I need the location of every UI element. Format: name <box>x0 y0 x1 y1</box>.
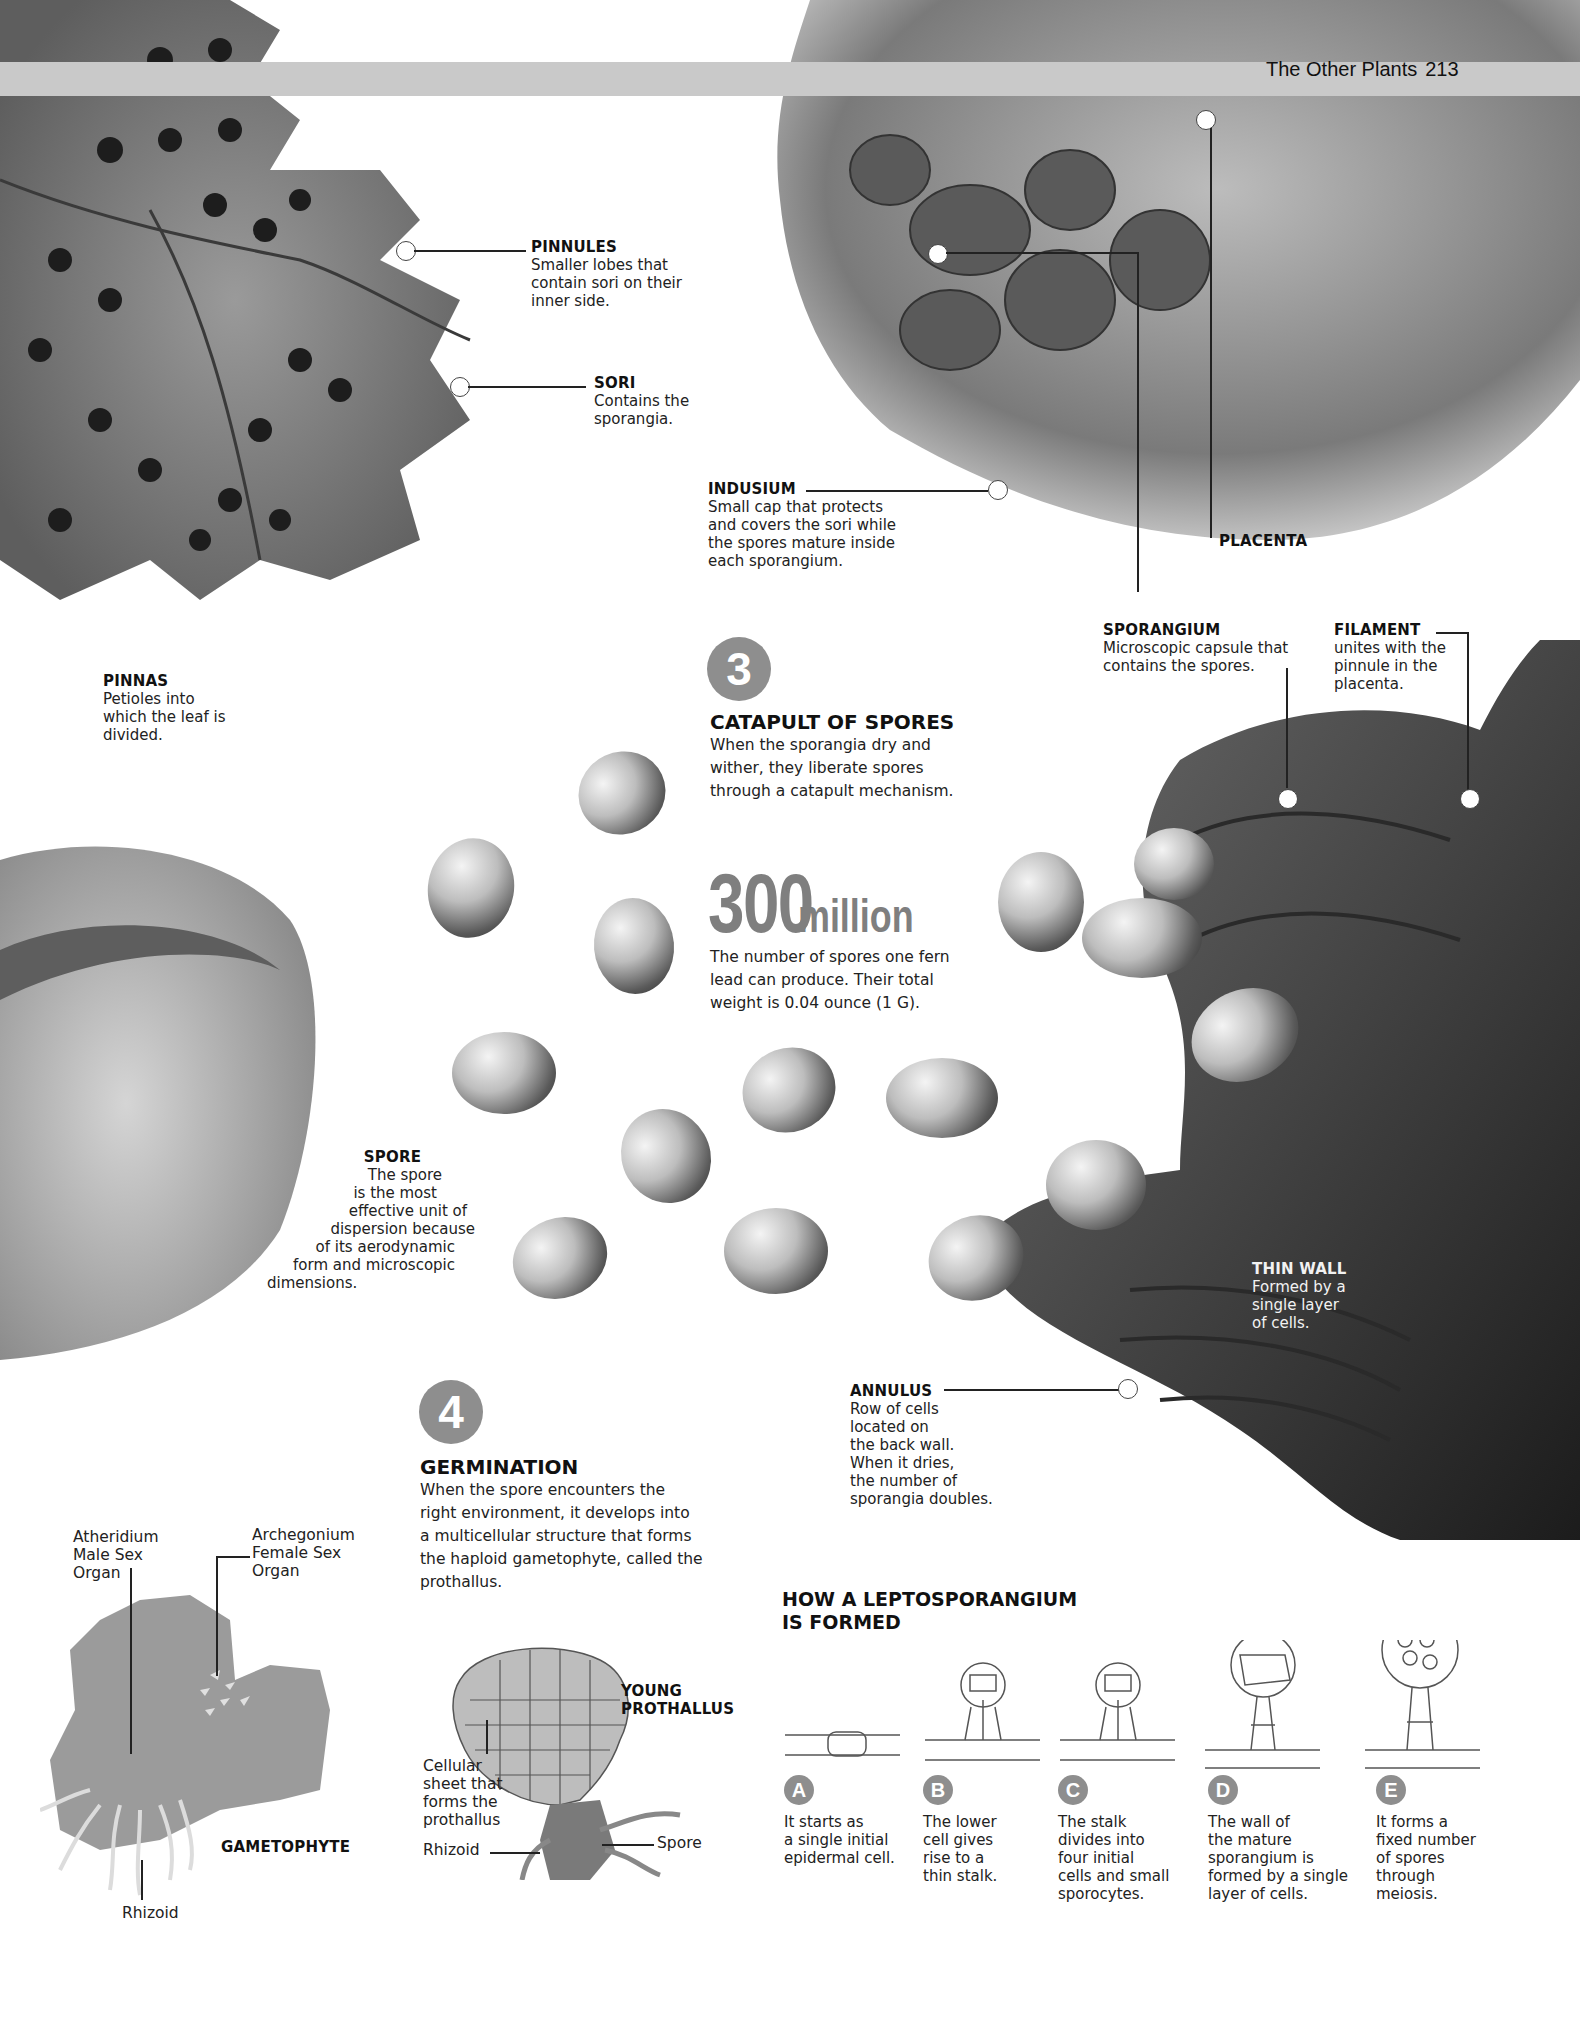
step-line: through <box>1376 1867 1526 1885</box>
filament-line: pinnule in the <box>1334 657 1446 675</box>
section-title-germination: GERMINATION <box>420 1455 703 1479</box>
archegonium-line: Archegonium <box>252 1526 355 1544</box>
spore-image <box>590 895 678 998</box>
spore-callout: SPORE The spore is the most effective un… <box>270 1148 475 1292</box>
sporangium-marker <box>928 244 948 264</box>
pinnas-title: PINNAS <box>103 672 225 690</box>
spore-image <box>604 1092 728 1219</box>
stat-line: The number of spores one fern <box>710 946 950 969</box>
stat-description: The number of spores one fern lead can p… <box>710 946 950 1015</box>
spore-image <box>1134 828 1214 900</box>
sporangium-title: SPORANGIUM <box>1103 621 1288 639</box>
step-line: It starts as <box>784 1813 934 1831</box>
archegonium-label: Archegonium Female Sex Organ <box>252 1526 355 1580</box>
section-body-line: wither, they liberate spores <box>710 757 954 780</box>
pinnules-title: PINNULES <box>531 238 682 256</box>
step-line: The wall of <box>1208 1813 1358 1831</box>
leptosporangium-title-line: IS FORMED <box>782 1611 1077 1634</box>
filament-callout: FILAMENT unites with the pinnule in the … <box>1334 621 1446 693</box>
spore-image <box>1046 1140 1146 1230</box>
step-badge-c: C <box>1058 1775 1088 1805</box>
thin-wall-callout: THIN WALL Formed by a single layer of ce… <box>1252 1260 1347 1332</box>
young-prothallus-title-line: PROTHALLUS <box>621 1700 734 1718</box>
leptosporangium-title-line: HOW A LEPTOSPORANGIUM <box>782 1588 1077 1611</box>
atheridium-label: Atheridium Male Sex Organ <box>73 1528 159 1582</box>
archegonium-line: Organ <box>252 1562 355 1580</box>
step-line: The stalk <box>1058 1813 1208 1831</box>
cellular-sheet-line: Cellular <box>423 1757 502 1775</box>
annulus-line: located on <box>850 1418 993 1436</box>
indusium-leader-line <box>806 490 988 492</box>
stat-line: weight is 0.04 ounce (1 G). <box>710 992 950 1015</box>
sori-callout: SORI Contains the sporangia. <box>594 374 689 428</box>
leptosporangium-stage-diagrams <box>780 1640 1500 1770</box>
annulus-line: the back wall. <box>850 1436 993 1454</box>
pinnules-line: inner side. <box>531 292 682 310</box>
indusium-line: each sporangium. <box>708 552 896 570</box>
annulus-marker <box>1118 1379 1138 1399</box>
step-badge-a: A <box>784 1775 814 1805</box>
pinnas-line: divided. <box>103 726 225 744</box>
cellular-sheet-label: Cellular sheet that forms the prothallus <box>423 1757 502 1829</box>
pinnules-line: contain sori on their <box>531 274 682 292</box>
section-body-line: right environment, it develops into <box>420 1502 703 1525</box>
cellular-sheet-line: forms the <box>423 1793 502 1811</box>
cellular-sheet-line: sheet that <box>423 1775 502 1793</box>
step-line: rise to a <box>923 1849 1073 1867</box>
annulus-callout: ANNULUS Row of cells located on the back… <box>850 1382 993 1508</box>
placenta-marker <box>1196 110 1216 130</box>
young-prothallus-title-line: YOUNG <box>621 1682 734 1700</box>
section-germination: GERMINATION When the spore encounters th… <box>420 1455 703 1594</box>
spore-line: effective unit of <box>270 1202 475 1220</box>
leptosporangium-step-e: E It forms a fixed number of spores thro… <box>1376 1775 1526 1903</box>
filament-marker <box>1460 789 1480 809</box>
sporangium-leader-h <box>946 252 1138 254</box>
placenta-leader-line <box>1210 128 1212 538</box>
sori-leader-line <box>468 386 586 388</box>
annulus-line: sporangia doubles. <box>850 1490 993 1508</box>
step-badge-b: B <box>923 1775 953 1805</box>
pinnules-line: Smaller lobes that <box>531 256 682 274</box>
atheridium-leader <box>130 1568 132 1754</box>
step-line: a single initial <box>784 1831 934 1849</box>
archegonium-leader-v <box>216 1556 218 1676</box>
annulus-title: ANNULUS <box>850 1382 993 1400</box>
section-body-line: prothallus. <box>420 1571 703 1594</box>
sporangium-line: Microscopic capsule that <box>1103 639 1288 657</box>
sporangium-callout: SPORANGIUM Microscopic capsule that cont… <box>1103 621 1288 675</box>
section-body-line: a multicellular structure that forms <box>420 1525 703 1548</box>
spore-line: dimensions. <box>267 1274 475 1292</box>
section-body-line: When the spore encounters the <box>420 1479 703 1502</box>
filament-line: unites with the <box>1334 639 1446 657</box>
sporangium-lower-leader <box>1286 668 1288 788</box>
step-line: layer of cells. <box>1208 1885 1358 1903</box>
thin-wall-line: of cells. <box>1252 1314 1347 1332</box>
placenta-title: PLACENTA <box>1219 532 1307 550</box>
step-badge-d: D <box>1208 1775 1238 1805</box>
thin-wall-title: THIN WALL <box>1252 1260 1347 1278</box>
step-line: fixed number <box>1376 1831 1526 1849</box>
step-line: epidermal cell. <box>784 1849 934 1867</box>
indusium-marker <box>988 480 1008 500</box>
annulus-leader-line <box>944 1389 1120 1391</box>
leptosporangium-step-b: B The lower cell gives rise to a thin st… <box>923 1775 1073 1885</box>
sori-title: SORI <box>594 374 689 392</box>
section-title-catapult: CATAPULT OF SPORES <box>710 710 954 734</box>
step-line: the mature <box>1208 1831 1358 1849</box>
section-body-line: When the sporangia dry and <box>710 734 954 757</box>
step-line: meiosis. <box>1376 1885 1526 1903</box>
spore-image <box>565 737 679 849</box>
atheridium-line: Male Sex <box>73 1546 159 1564</box>
step-line: of spores <box>1376 1849 1526 1867</box>
gametophyte-diagram <box>40 1590 340 1910</box>
section-body-line: through a catapult mechanism. <box>710 780 954 803</box>
archegonium-leader-h <box>216 1556 250 1558</box>
prothallus-spore-label: Spore <box>657 1834 702 1852</box>
stat-line: lead can produce. Their total <box>710 969 950 992</box>
step-line: cells and small <box>1058 1867 1208 1885</box>
step-badge-e: E <box>1376 1775 1406 1805</box>
atheridium-line: Organ <box>73 1564 159 1582</box>
sori-marker <box>450 377 470 397</box>
spore-image <box>730 1034 847 1145</box>
step-line: thin stalk. <box>923 1867 1073 1885</box>
